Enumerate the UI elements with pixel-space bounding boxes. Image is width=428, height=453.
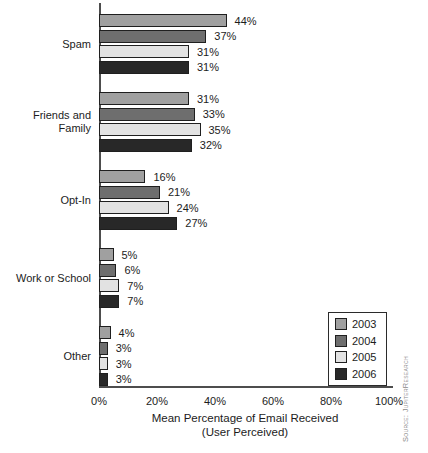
legend-item-2004: 2004 [335, 335, 386, 347]
bar-other-2004 [99, 342, 108, 355]
x-axis-title-line2: (User Perceived) [99, 425, 391, 439]
legend-swatch-2003 [335, 318, 347, 330]
bar-spam-2004 [99, 30, 206, 43]
bar-row-friends-and-family-2006: 32% [99, 138, 409, 154]
category-group-work-or-school: Work or School5%6%7%7% [0, 247, 428, 309]
x-tick-60-: 60% [262, 395, 284, 407]
legend-label-2005: 2005 [352, 351, 376, 363]
bar-row-work-or-school-2003: 5% [99, 247, 409, 263]
bar-work-or-school-2004 [99, 264, 116, 277]
bar-row-work-or-school-2006: 7% [99, 294, 409, 310]
bar-value-label: 44% [235, 15, 257, 27]
bar-row-opt-in-2005: 24% [99, 200, 409, 216]
bar-friends-and-family-2004 [99, 108, 195, 121]
category-group-spam: Spam44%37%31%31% [0, 13, 428, 75]
bar-value-label: 16% [153, 171, 175, 183]
x-tick-40-: 40% [204, 395, 226, 407]
bars-work-or-school: 5%6%7%7% [99, 247, 409, 309]
legend-item-2003: 2003 [335, 318, 386, 330]
bar-value-label: 6% [124, 264, 140, 276]
legend-swatch-2006 [335, 368, 347, 380]
bar-friends-and-family-2006 [99, 139, 192, 152]
x-tick-0-: 0% [91, 395, 107, 407]
legend: 2003200420052006 [328, 312, 387, 386]
bar-row-spam-2004: 37% [99, 29, 409, 45]
email-received-bar-chart: Spam44%37%31%31%Friends and Family31%33%… [0, 0, 428, 453]
legend-item-2006: 2006 [335, 368, 386, 380]
category-label-friends-and-family: Friends and Family [0, 109, 99, 135]
bar-value-label: 37% [214, 30, 236, 42]
bar-spam-2006 [99, 61, 189, 74]
category-label-spam: Spam [0, 38, 99, 51]
bar-friends-and-family-2003 [99, 92, 189, 105]
bar-row-friends-and-family-2003: 31% [99, 91, 409, 107]
bar-value-label: 7% [127, 280, 143, 292]
bar-opt-in-2006 [99, 217, 177, 230]
legend-label-2004: 2004 [352, 335, 376, 347]
bar-opt-in-2003 [99, 170, 145, 183]
bars-friends-and-family: 31%33%35%32% [99, 91, 409, 153]
legend-swatch-2004 [335, 335, 347, 347]
bar-row-opt-in-2006: 27% [99, 216, 409, 232]
source-note: Source: JupiterResearch [401, 356, 410, 442]
bar-opt-in-2004 [99, 186, 160, 199]
bar-opt-in-2005 [99, 201, 169, 214]
bar-value-label: 3% [116, 342, 132, 354]
x-tick-20-: 20% [146, 395, 168, 407]
bar-value-label: 4% [119, 327, 135, 339]
bar-row-work-or-school-2004: 6% [99, 263, 409, 279]
x-axis-title: Mean Percentage of Email Received (User … [99, 411, 391, 439]
bar-value-label: 32% [200, 139, 222, 151]
bar-work-or-school-2003 [99, 248, 114, 261]
legend-label-2003: 2003 [352, 318, 376, 330]
bar-row-friends-and-family-2005: 35% [99, 122, 409, 138]
bar-value-label: 35% [209, 124, 231, 136]
bar-other-2005 [99, 357, 108, 370]
bar-value-label: 5% [122, 249, 138, 261]
legend-swatch-2005 [335, 351, 347, 363]
bars-opt-in: 16%21%24%27% [99, 169, 409, 231]
bar-value-label: 21% [168, 186, 190, 198]
category-label-opt-in: Opt-In [0, 194, 99, 207]
x-tick-80-: 80% [320, 395, 342, 407]
bar-value-label: 31% [197, 93, 219, 105]
bar-spam-2003 [99, 14, 227, 27]
bar-friends-and-family-2005 [99, 123, 201, 136]
bar-work-or-school-2005 [99, 279, 119, 292]
bar-value-label: 27% [185, 217, 207, 229]
category-group-opt-in: Opt-In16%21%24%27% [0, 169, 428, 231]
bar-work-or-school-2006 [99, 295, 119, 308]
bar-other-2006 [99, 373, 108, 386]
category-group-friends-and-family: Friends and Family31%33%35%32% [0, 91, 428, 153]
bar-value-label: 31% [197, 61, 219, 73]
legend-label-2006: 2006 [352, 368, 376, 380]
bar-other-2003 [99, 326, 111, 339]
x-axis-title-line1: Mean Percentage of Email Received [99, 411, 391, 425]
legend-item-2005: 2005 [335, 351, 386, 363]
x-tick-100-: 100% [375, 395, 403, 407]
bar-row-spam-2003: 44% [99, 13, 409, 29]
bar-value-label: 3% [116, 358, 132, 370]
bar-row-work-or-school-2005: 7% [99, 278, 409, 294]
bar-spam-2005 [99, 45, 189, 58]
bar-row-spam-2006: 31% [99, 60, 409, 76]
category-label-work-or-school: Work or School [0, 272, 99, 285]
bar-row-spam-2005: 31% [99, 44, 409, 60]
category-label-other: Other [0, 350, 99, 363]
bar-row-opt-in-2004: 21% [99, 185, 409, 201]
bar-value-label: 7% [127, 295, 143, 307]
bar-value-label: 33% [203, 108, 225, 120]
bars-spam: 44%37%31%31% [99, 13, 409, 75]
bar-value-label: 24% [177, 202, 199, 214]
bar-row-friends-and-family-2004: 33% [99, 107, 409, 123]
bar-row-opt-in-2003: 16% [99, 169, 409, 185]
bar-value-label: 31% [197, 46, 219, 58]
bar-value-label: 3% [116, 373, 132, 385]
